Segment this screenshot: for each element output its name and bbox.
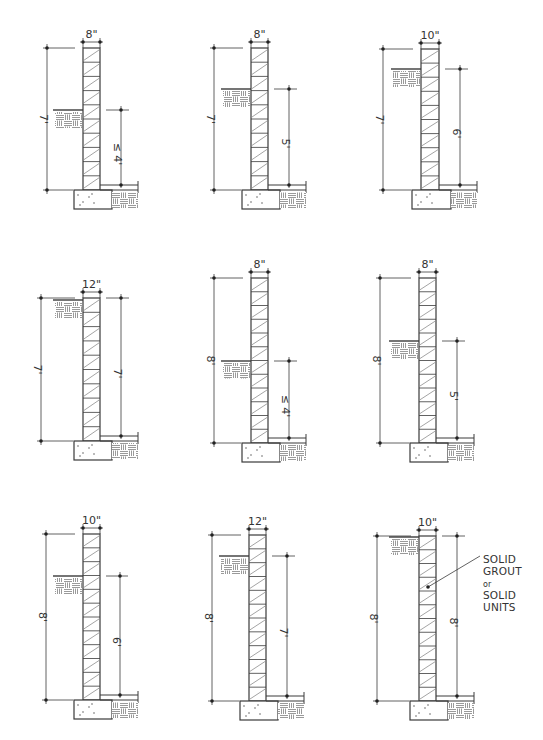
wall-section-panel-3: 7'6'10" <box>373 29 477 209</box>
masonry-wall <box>249 535 266 701</box>
wall-thickness-dimension: 10" <box>80 514 103 534</box>
backfill-height-dimension: 5' <box>274 85 297 188</box>
masonry-wall <box>421 49 439 190</box>
concrete-footing <box>240 701 278 720</box>
wall-thickness-dimension: 12" <box>246 515 269 535</box>
backfill-height-label: 6' <box>110 637 123 647</box>
masonry-wall <box>251 48 268 190</box>
total-height-label: 8' <box>204 355 217 365</box>
backfill-height-dimension: 5' <box>442 337 465 441</box>
backfill-height-label: 7' <box>111 368 124 378</box>
total-height-dimension: 8' <box>370 274 411 447</box>
total-height-label: 7' <box>37 114 50 124</box>
concrete-footing <box>74 190 112 209</box>
total-height-dimension: 7' <box>373 45 413 194</box>
callout-text-line: UNITS <box>483 601 516 613</box>
wall-thickness-label: 10" <box>420 29 439 42</box>
wall-section-panel-8: 8'7'12" <box>202 515 304 720</box>
masonry-wall <box>83 48 100 190</box>
backfill-height-dimension: 7' <box>106 294 129 439</box>
concrete-footing <box>410 701 448 720</box>
backfill-soil <box>219 556 249 574</box>
backfill-soil <box>53 110 83 128</box>
wall-section-panel-1: 7'≤ 4'8" <box>37 28 138 209</box>
masonry-wall <box>251 278 268 443</box>
total-height-label: 8' <box>367 613 380 623</box>
backfill-soil <box>53 576 83 594</box>
total-height-label: 7' <box>204 114 217 124</box>
wall-section-panel-2: 7'5'8" <box>204 28 306 209</box>
wall-thickness-label: 12" <box>82 278 101 291</box>
backfill-height-label: 8' <box>447 617 460 627</box>
backfill-soil <box>53 300 83 318</box>
backfill-height-label: ≤ 4' <box>111 143 124 166</box>
wall-section-panel-5: 8'≤ 4'8" <box>204 258 306 462</box>
callout-text-line: GROUT <box>483 565 522 577</box>
wall-thickness-label: 8" <box>253 28 265 41</box>
backfill-soil <box>389 341 419 359</box>
backfill-soil <box>389 537 419 555</box>
callout-text-line: SOLID <box>483 589 516 601</box>
total-height-label: 8' <box>370 355 383 365</box>
masonry-wall <box>83 298 100 441</box>
backfill-height-label: ≤ 4' <box>279 395 292 418</box>
backfill-height-label: 5' <box>279 138 292 148</box>
backfill-soil <box>221 89 251 107</box>
wall-thickness-label: 8" <box>85 28 97 41</box>
wall-thickness-dimension: 8" <box>80 28 103 48</box>
backfill-height-dimension: 7' <box>272 552 295 699</box>
backfill-height-label: 7' <box>277 627 290 637</box>
wall-thickness-label: 10" <box>418 516 437 529</box>
concrete-footing <box>410 443 448 462</box>
callout-text-line: SOLID <box>483 553 516 565</box>
concrete-footing <box>412 190 451 209</box>
solid-grout-callout: SOLIDGROUTorSOLIDUNITS <box>426 553 522 613</box>
masonry-wall <box>83 534 100 700</box>
backfill-height-dimension: 6' <box>106 572 128 698</box>
total-height-label: 8' <box>202 613 215 623</box>
backfill-height-dimension: 6' <box>445 65 468 188</box>
backfill-height-dimension: ≤ 4' <box>274 357 297 441</box>
total-height-dimension: 7' <box>204 44 243 194</box>
backfill-height-label: 6' <box>450 128 463 138</box>
backfill-height-dimension: ≤ 4' <box>106 106 129 188</box>
wall-thickness-dimension: 8" <box>248 258 271 278</box>
wall-thickness-dimension: 10" <box>416 516 439 536</box>
wall-thickness-dimension: 8" <box>416 258 439 278</box>
total-height-label: 7' <box>31 364 44 374</box>
wall-sections-diagram: 7'≤ 4'8"7'5'8"7'6'10"7'7'12"8'≤ 4'8"8'5'… <box>0 0 543 740</box>
total-height-label: 8' <box>36 612 49 622</box>
masonry-wall <box>419 536 436 701</box>
wall-thickness-dimension: 10" <box>418 29 442 49</box>
total-height-dimension: 8' <box>202 531 241 705</box>
total-height-label: 7' <box>373 114 386 124</box>
total-height-dimension: 8' <box>367 532 411 705</box>
backfill-height-dimension: 8' <box>442 532 465 699</box>
backfill-height-label: 5' <box>447 391 460 401</box>
wall-thickness-label: 12" <box>248 515 267 528</box>
wall-section-panel-4: 7'7'12" <box>31 278 138 460</box>
backfill-soil <box>221 361 251 379</box>
masonry-wall <box>419 278 436 443</box>
callout-text-line: or <box>483 580 492 589</box>
concrete-footing <box>242 190 280 209</box>
wall-thickness-label: 10" <box>82 514 101 527</box>
concrete-footing <box>242 443 280 462</box>
wall-thickness-dimension: 8" <box>248 28 271 48</box>
concrete-footing <box>74 700 112 719</box>
concrete-footing <box>74 441 112 460</box>
wall-section-panel-6: 8'5'8" <box>370 258 474 462</box>
wall-section-panel-9: 8'8'10"SOLIDGROUTorSOLIDUNITS <box>367 516 522 720</box>
wall-section-panel-7: 8'6'10" <box>36 514 138 719</box>
wall-thickness-label: 8" <box>421 258 433 271</box>
wall-thickness-dimension: 12" <box>80 278 103 298</box>
total-height-dimension: 8' <box>36 530 75 704</box>
wall-thickness-label: 8" <box>253 258 265 271</box>
backfill-soil <box>391 69 421 87</box>
